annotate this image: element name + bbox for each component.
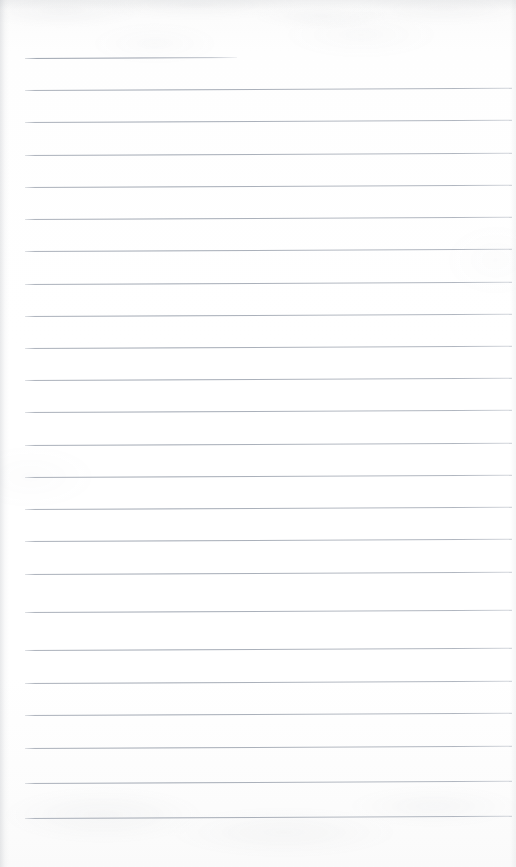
paper-scan-texture xyxy=(0,0,516,867)
ruled-line xyxy=(25,249,512,252)
ruled-line xyxy=(25,88,512,91)
ruled-line xyxy=(25,153,512,156)
ruled-line xyxy=(25,746,512,749)
ruled-line xyxy=(25,507,512,510)
ruled-line xyxy=(25,816,512,819)
page-edge-shadow-left xyxy=(0,0,9,867)
ruled-line xyxy=(25,282,512,285)
ruled-line xyxy=(25,648,512,651)
ruled-line xyxy=(25,681,512,684)
ruled-line xyxy=(25,57,237,59)
ruled-line xyxy=(25,443,512,446)
ruled-line xyxy=(25,410,512,413)
ruled-line xyxy=(25,314,512,317)
page-edge-shadow-top xyxy=(0,0,516,10)
paper-background xyxy=(0,0,516,867)
ruled-line xyxy=(25,539,512,542)
ruled-line xyxy=(25,378,512,381)
ruled-line xyxy=(25,713,512,716)
notebook-page xyxy=(0,0,516,867)
ruled-line xyxy=(25,217,512,220)
ruled-line xyxy=(25,475,512,478)
ruled-lines-layer xyxy=(0,0,516,867)
ruled-line xyxy=(25,185,512,188)
ruled-line xyxy=(25,346,512,349)
page-edge-shadow-right xyxy=(510,0,516,867)
ruled-line xyxy=(25,781,512,784)
ruled-line xyxy=(25,120,512,123)
ruled-line xyxy=(25,572,512,575)
ruled-line xyxy=(25,610,512,613)
